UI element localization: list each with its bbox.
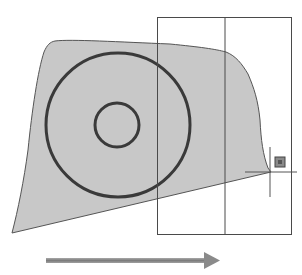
diagram-canvas xyxy=(0,0,302,275)
filled-region[interactable] xyxy=(12,40,271,233)
direction-arrow-right-icon xyxy=(46,252,220,269)
diagram-svg xyxy=(0,0,302,275)
grip-square-icon[interactable] xyxy=(275,157,285,167)
